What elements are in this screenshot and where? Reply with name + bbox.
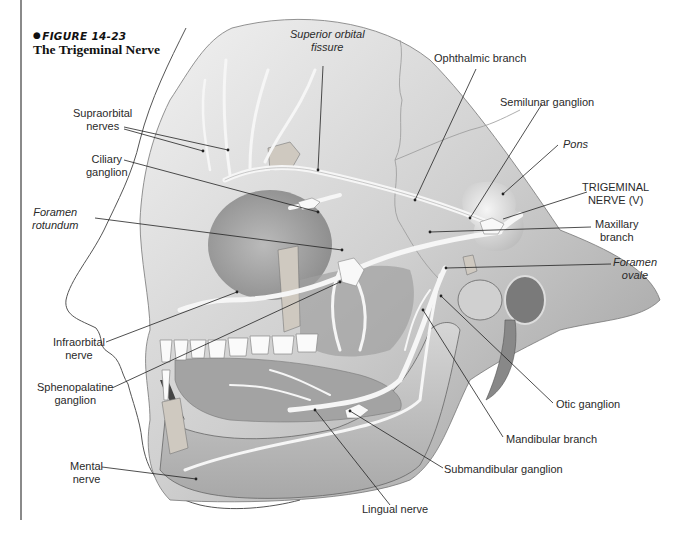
trigeminal-illustration [0,0,687,548]
label-submandibular-ganglion: Submandibular ganglion [444,463,563,476]
label-sphenopalatine-ganglion: Sphenopalatine ganglion [37,381,113,406]
label-infraorbital-nerve: Infraorbital nerve [53,336,105,361]
label-pons: Pons [563,138,588,151]
label-foramen-ovale: Foramen ovale [613,256,657,281]
label-semilunar-ganglion: Semilunar ganglion [500,96,594,109]
label-ciliary-ganglion: Ciliary ganglion [86,153,128,178]
label-mental-nerve: Mental nerve [70,460,103,485]
label-supraorbital-nerves: Supraorbital nerves [73,107,132,132]
label-superior-orbital-fissure: Superior orbital fissure [290,28,365,53]
label-lingual-nerve: Lingual nerve [362,503,428,516]
label-otic-ganglion: Otic ganglion [556,398,620,411]
mandibular-condyle [458,280,502,320]
label-foramen-rotundum: Foramen rotundum [32,206,78,231]
label-trigeminal-nerve: TRIGEMINAL NERVE (V) [582,181,649,206]
label-mandibular-branch: Mandibular branch [506,433,597,446]
ear-canal [505,276,545,324]
label-maxillary-branch: Maxillary branch [595,218,638,243]
label-ophthalmic-branch: Ophthalmic branch [434,52,526,65]
